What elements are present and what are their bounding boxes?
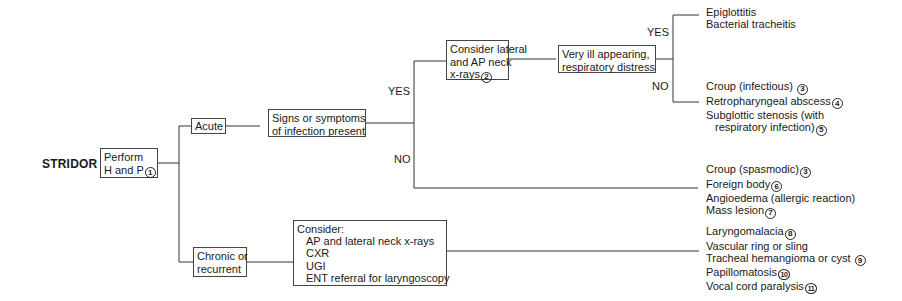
node-line: Acute xyxy=(195,120,222,133)
diagnosis-item: Angioedema (allergic reaction) xyxy=(706,192,855,204)
node-line: Very ill appearing, xyxy=(562,48,652,61)
diagram-title: STRIDOR xyxy=(42,157,97,171)
node-line: and AP neck xyxy=(450,56,505,69)
reference-number-badge: 8 xyxy=(785,229,796,240)
node-perform-h-and-p: Perform H and P1 xyxy=(100,148,158,178)
reference-number-badge: 9 xyxy=(855,255,866,266)
workup-item: ENT referral for laryngoscopy xyxy=(297,272,443,284)
reference-number-badge: 11 xyxy=(805,283,817,294)
node-very-ill-appearing: Very ill appearing, respiratory distress xyxy=(558,45,656,73)
node-line: recurrent xyxy=(197,263,243,276)
node-line: H and P1 xyxy=(104,164,154,179)
node-heading: Consider: xyxy=(297,223,443,235)
node-line: Signs or symptoms xyxy=(272,112,362,125)
diagnosis-item: Bacterial tracheitis xyxy=(706,18,796,30)
diagnosis-item: Mass lesion7 xyxy=(706,204,855,219)
reference-number-badge: 1 xyxy=(145,167,156,178)
node-chronic-or-recurrent: Chronic or recurrent xyxy=(193,247,247,277)
reference-number-badge: 5 xyxy=(816,125,827,136)
node-signs-of-infection: Signs or symptoms of infection present xyxy=(268,109,366,137)
node-acute: Acute xyxy=(191,118,226,134)
diagnosis-item: Croup (infectious) 3 xyxy=(706,80,843,95)
node-line: Chronic or xyxy=(197,250,243,263)
node-consider-neck-xrays: Consider lateral and AP neck x-rays2 xyxy=(446,40,509,80)
diagnosis-item: Subglottic stenosis (with xyxy=(706,109,843,121)
branch-label-no: NO xyxy=(652,80,669,92)
reference-number-badge: 3 xyxy=(800,167,811,178)
node-line: x-rays2 xyxy=(450,68,505,83)
workup-item: UGI xyxy=(297,260,443,272)
node-line: Perform xyxy=(104,151,154,164)
diagnosis-item: Epiglottitis xyxy=(706,6,796,18)
branch-label-no: NO xyxy=(394,153,411,165)
reference-number-badge: 3 xyxy=(797,84,808,95)
outcome-list-infection-not-severe: Croup (infectious) 3 Retropharyngeal abs… xyxy=(706,80,843,136)
outcome-list-no-infection: Croup (spasmodic)3 Foreign body6 Angioed… xyxy=(706,163,855,219)
reference-number-badge: 7 xyxy=(765,208,776,219)
node-line: respiratory distress xyxy=(562,61,652,74)
diagnosis-item: Foreign body6 xyxy=(706,178,855,193)
reference-number-badge: 2 xyxy=(481,72,492,83)
reference-number-badge: 4 xyxy=(832,98,843,109)
branch-label-yes: YES xyxy=(647,26,669,38)
outcome-list-chronic: Laryngomalacia8 Vascular ring or sling T… xyxy=(706,225,866,294)
node-consider-chronic-workup: Consider: AP and lateral neck x-rays CXR… xyxy=(293,220,447,286)
outcome-list-severe-infection: Epiglottitis Bacterial tracheitis xyxy=(706,6,796,30)
diagnosis-item: Croup (spasmodic)3 xyxy=(706,163,855,178)
reference-number-badge: 10 xyxy=(778,269,790,280)
diagnosis-item: Tracheal hemangioma or cyst 9 xyxy=(706,252,866,267)
reference-number-badge: 6 xyxy=(771,181,782,192)
diagnosis-item: Papillomatosis10 xyxy=(706,266,866,280)
diagnosis-item: Retropharyngeal abscess4 xyxy=(706,95,843,110)
diagnosis-item: Vascular ring or sling xyxy=(706,240,866,252)
diagnosis-item: respiratory infection)5 xyxy=(706,121,843,136)
node-line: Consider lateral xyxy=(450,43,505,56)
workup-item: AP and lateral neck x-rays xyxy=(297,235,443,247)
branch-label-yes: YES xyxy=(388,85,410,97)
diagnosis-item: Vocal cord paralysis11 xyxy=(706,280,866,294)
node-line: of infection present xyxy=(272,125,362,138)
workup-item: CXR xyxy=(297,247,443,259)
diagnosis-item: Laryngomalacia8 xyxy=(706,225,866,240)
